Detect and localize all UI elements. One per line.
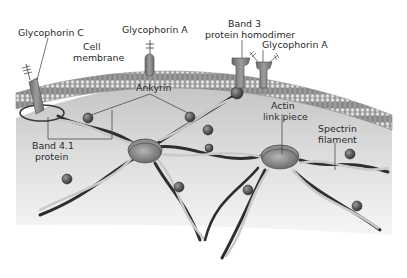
label-cell-membrane-line2: membrane (73, 53, 124, 64)
actin-link-piece-right (261, 145, 299, 169)
label-actin-line2: link piece (263, 112, 308, 123)
label-glycophorin-a-left: Glycophorin A (122, 25, 188, 36)
label-spectrin-line1: Spectrin (318, 124, 357, 135)
glycophorin-a-left-protein (145, 40, 154, 76)
label-actin-line1: Actin (271, 101, 295, 112)
label-spectrin-line2: filament (318, 135, 357, 146)
label-glycophorin-c: Glycophorin C (18, 28, 84, 39)
label-glycophorin-a-right: Glycophorin A (262, 40, 328, 51)
label-band41-line2: protein (35, 152, 68, 163)
label-ankyrin: Ankyrin (136, 83, 171, 94)
actin-link-piece-left (128, 139, 162, 163)
label-band41-line1: Band 4.1 (32, 141, 74, 152)
label-cell-membrane-line1: Cell (83, 42, 101, 53)
label-band3-line1: Band 3 (228, 19, 261, 30)
